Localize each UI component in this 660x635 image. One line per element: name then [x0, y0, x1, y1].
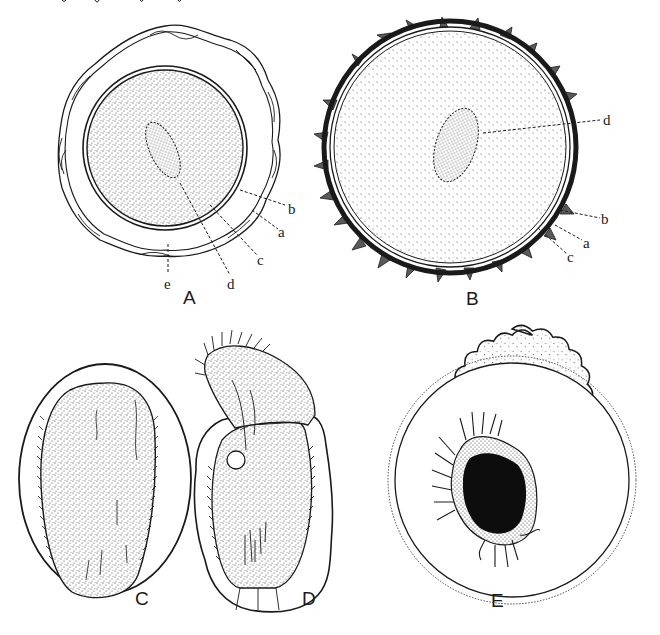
- panel-c: C: [19, 364, 191, 609]
- panel-c-body: [41, 383, 155, 598]
- panel-b-callout-a: a: [583, 235, 590, 251]
- panel-c-label: C: [135, 588, 149, 609]
- panel-b: d b a c B: [314, 17, 611, 309]
- panel-e: E: [388, 325, 636, 611]
- panel-a-callout-b: b: [288, 201, 296, 217]
- panel-e-label: E: [491, 590, 504, 611]
- panel-d-body: [212, 419, 311, 588]
- panel-b-label: B: [466, 288, 479, 309]
- panel-d-label: D: [302, 588, 316, 609]
- panel-a: b a c d e A: [58, 25, 295, 308]
- caption-fragments: [62, 0, 181, 2]
- cyst-illustration-plate: b a c d e A: [0, 0, 660, 635]
- panel-a-label: A: [183, 287, 196, 308]
- panel-a-callout-e: e: [164, 276, 171, 292]
- panel-d-anterior: [205, 346, 315, 428]
- panel-b-callout-d: d: [603, 112, 611, 128]
- panel-a-callout-c: c: [257, 252, 264, 268]
- panel-a-callout-a: a: [278, 224, 285, 240]
- panel-b-callout-c: c: [567, 249, 574, 265]
- panel-b-callout-b: b: [601, 211, 609, 227]
- panel-a-callout-d: d: [227, 276, 235, 292]
- panel-d-vacuole: [227, 451, 245, 469]
- panel-d: D: [194, 330, 332, 612]
